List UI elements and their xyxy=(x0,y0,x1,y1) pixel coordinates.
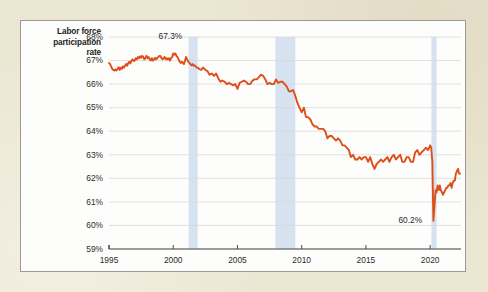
y-axis-tick-label: 65% xyxy=(73,103,103,111)
x-axis-tick-label: 2015 xyxy=(346,256,386,264)
y-axis-tick-label: 62% xyxy=(73,174,103,182)
y-axis-tick-label: 67% xyxy=(73,56,103,64)
x-axis-tick-label: 2020 xyxy=(410,256,450,264)
y-axis-tick-label: 64% xyxy=(73,127,103,135)
y-axis-tick-label: 68% xyxy=(73,33,103,41)
y-axis-tick-label: 63% xyxy=(73,151,103,159)
figure-root: Labor force participation rate 59%60%61%… xyxy=(0,0,488,292)
recession-band xyxy=(275,37,295,249)
y-axis-tick-label: 60% xyxy=(73,221,103,229)
value-annotation-trough: 60.2% xyxy=(398,216,422,224)
x-axis-tick-label: 2000 xyxy=(153,256,193,264)
y-axis-tick-label: 61% xyxy=(73,198,103,206)
value-annotation-peak: 67.3% xyxy=(159,32,183,40)
plot-area: Labor force participation rate 59%60%61%… xyxy=(21,21,467,273)
x-axis-tick-label: 1995 xyxy=(89,256,129,264)
y-axis-tick-label: 66% xyxy=(73,80,103,88)
y-axis-tick-label: 59% xyxy=(73,245,103,253)
chart-card: Labor force participation rate 59%60%61%… xyxy=(20,20,466,272)
x-axis-tick-label: 2010 xyxy=(282,256,322,264)
x-axis-tick-label: 2005 xyxy=(217,256,257,264)
recession-band xyxy=(189,37,198,249)
